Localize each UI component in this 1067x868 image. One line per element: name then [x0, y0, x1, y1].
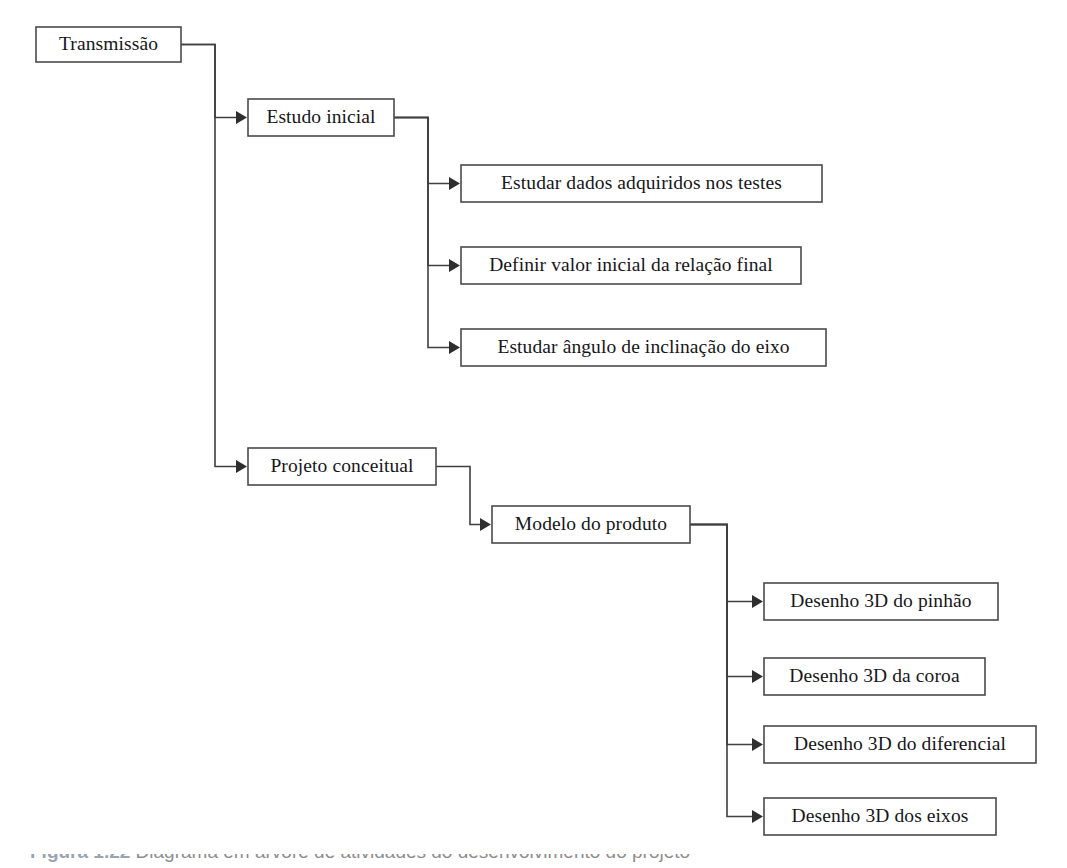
- node-label: Estudar dados adquiridos nos testes: [501, 172, 782, 193]
- arrow-head-icon: [752, 738, 763, 751]
- edge-layer: [181, 45, 763, 824]
- node-label: Estudar ângulo de inclinação do eixo: [497, 336, 789, 357]
- connector-line: [394, 118, 449, 266]
- node-label: Desenho 3D do pinhão: [790, 590, 971, 611]
- node-label: Projeto conceitual: [270, 455, 414, 476]
- connector-line: [181, 45, 236, 467]
- flowchart-diagram: TransmissãoEstudo inicialEstudar dados a…: [0, 0, 1067, 868]
- connector-line: [690, 525, 752, 745]
- node-estudar_angulo[interactable]: Estudar ângulo de inclinação do eixo: [461, 329, 826, 366]
- connector-line: [394, 118, 449, 348]
- node-label: Estudo inicial: [266, 106, 376, 127]
- node-des_eixos[interactable]: Desenho 3D dos eixos: [764, 798, 996, 835]
- connector-line: [690, 525, 752, 602]
- connector-estudo-to-definir_valor: [394, 118, 460, 273]
- connector-estudo-to-estudar_dados: [394, 118, 460, 191]
- node-definir_valor[interactable]: Definir valor inicial da relação final: [461, 247, 801, 284]
- connector-line: [394, 118, 449, 184]
- node-label: Modelo do produto: [515, 513, 667, 534]
- arrow-head-icon: [449, 341, 460, 354]
- connector-transmissao-to-estudo: [181, 45, 247, 125]
- node-estudar_dados[interactable]: Estudar dados adquiridos nos testes: [461, 165, 822, 202]
- node-estudo[interactable]: Estudo inicial: [248, 99, 394, 136]
- arrow-head-icon: [480, 518, 491, 531]
- node-des_coroa[interactable]: Desenho 3D da coroa: [764, 658, 985, 695]
- connector-line: [181, 45, 236, 118]
- node-label: Transmissão: [59, 33, 158, 54]
- node-modelo[interactable]: Modelo do produto: [492, 506, 690, 543]
- arrow-head-icon: [752, 810, 763, 823]
- connector-projeto-to-modelo: [436, 467, 491, 532]
- node-label: Desenho 3D dos eixos: [792, 805, 969, 826]
- node-des_dif[interactable]: Desenho 3D do diferencial: [764, 726, 1036, 763]
- connector-line: [436, 467, 480, 525]
- node-des_pinhao[interactable]: Desenho 3D do pinhão: [764, 583, 998, 620]
- connector-estudo-to-estudar_angulo: [394, 118, 460, 355]
- node-layer: TransmissãoEstudo inicialEstudar dados a…: [36, 27, 1036, 835]
- connector-line: [690, 525, 752, 677]
- arrow-head-icon: [449, 177, 460, 190]
- arrow-head-icon: [752, 670, 763, 683]
- connector-transmissao-to-projeto: [181, 45, 247, 474]
- node-label: Definir valor inicial da relação final: [489, 254, 773, 275]
- node-label: Desenho 3D da coroa: [789, 665, 960, 686]
- arrow-head-icon: [236, 111, 247, 124]
- arrow-head-icon: [449, 259, 460, 272]
- node-label: Desenho 3D do diferencial: [794, 733, 1007, 754]
- connector-line: [690, 525, 752, 817]
- flowchart-canvas: TransmissãoEstudo inicialEstudar dados a…: [0, 0, 1067, 868]
- node-projeto[interactable]: Projeto conceitual: [248, 448, 436, 485]
- arrow-head-icon: [236, 460, 247, 473]
- node-transmissao[interactable]: Transmissão: [36, 27, 181, 62]
- arrow-head-icon: [752, 595, 763, 608]
